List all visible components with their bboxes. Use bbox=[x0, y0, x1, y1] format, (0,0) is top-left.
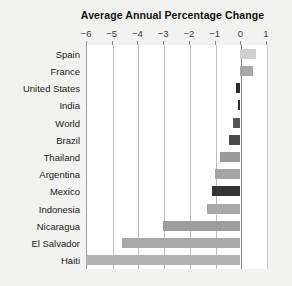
bar bbox=[229, 135, 241, 145]
bar bbox=[220, 152, 241, 162]
bar bbox=[240, 66, 253, 76]
category-label: United States bbox=[23, 83, 80, 94]
x-tick-label: 1 bbox=[263, 28, 268, 39]
bar bbox=[240, 49, 255, 59]
x-tick-label: −2 bbox=[183, 28, 194, 39]
category-label: Spain bbox=[56, 48, 80, 59]
x-tick-label: −5 bbox=[106, 28, 117, 39]
x-tick-label: −1 bbox=[209, 28, 220, 39]
bar bbox=[215, 169, 241, 179]
category-label: Brazil bbox=[56, 134, 80, 145]
category-label: Haiti bbox=[61, 255, 80, 266]
bar bbox=[233, 118, 241, 128]
chart-row: Spain bbox=[0, 45, 292, 62]
category-label: Nicaragua bbox=[37, 220, 80, 231]
x-tick-label: −4 bbox=[132, 28, 143, 39]
category-label: France bbox=[50, 65, 80, 76]
chart-row: Mexico bbox=[0, 183, 292, 200]
chart-row: El Salvador bbox=[0, 235, 292, 252]
bar bbox=[236, 83, 240, 93]
bar bbox=[238, 100, 241, 110]
category-label: El Salvador bbox=[31, 238, 80, 249]
x-tick-label: 0 bbox=[238, 28, 243, 39]
chart-row: India bbox=[0, 97, 292, 114]
bar bbox=[122, 238, 240, 248]
bar bbox=[212, 186, 240, 196]
chart-row: Brazil bbox=[0, 131, 292, 148]
chart-row: Haiti bbox=[0, 252, 292, 269]
chart-row: Thailand bbox=[0, 148, 292, 165]
bar bbox=[86, 255, 240, 265]
category-label: Indonesia bbox=[39, 203, 80, 214]
bar-chart: Average Annual Percentage Change −6−5−4−… bbox=[0, 0, 292, 286]
category-label: Argentina bbox=[39, 169, 80, 180]
chart-row: World bbox=[0, 114, 292, 131]
bar bbox=[163, 221, 240, 231]
category-label: Mexico bbox=[50, 186, 80, 197]
category-label: World bbox=[55, 117, 80, 128]
chart-row: Nicaragua bbox=[0, 217, 292, 234]
x-tick-label: −3 bbox=[158, 28, 169, 39]
category-label: India bbox=[59, 100, 80, 111]
chart-row: Argentina bbox=[0, 166, 292, 183]
bar bbox=[207, 204, 240, 214]
chart-row: United States bbox=[0, 79, 292, 96]
category-label: Thailand bbox=[44, 151, 80, 162]
chart-row: Indonesia bbox=[0, 200, 292, 217]
x-axis-tick-labels: −6−5−4−3−2−101 bbox=[0, 28, 292, 42]
chart-row: France bbox=[0, 62, 292, 79]
x-tick-label: −6 bbox=[81, 28, 92, 39]
chart-title: Average Annual Percentage Change bbox=[60, 9, 285, 21]
